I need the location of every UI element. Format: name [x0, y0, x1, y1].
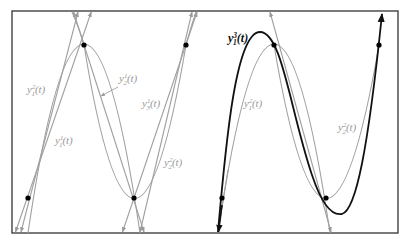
- label-left-y3-1: y13(t): [141, 97, 161, 112]
- interpolation-diagram: y21(t) y12(t) y13(t) y11(t) y22(t) y31(t…: [0, 0, 404, 245]
- label-left-y2-2: y22(t): [163, 156, 183, 171]
- left-panel: [16, 12, 198, 233]
- cubic-y1-3: [218, 14, 382, 232]
- parabola-y2-2: [84, 45, 186, 199]
- label-left-y1-2: y21(t): [26, 83, 46, 98]
- parabola-y2-2-right: [274, 45, 379, 199]
- label-pointer-y2-1: [101, 87, 118, 96]
- label-right-y1-2: y21(t): [243, 97, 263, 112]
- label-right-y2-2: y22(t): [337, 121, 357, 136]
- label-left-y2-1: y12(t): [118, 72, 138, 87]
- label-right-y1-3: y31(t): [226, 31, 248, 47]
- parabola-y1-2-right: [218, 44, 330, 233]
- label-left-y1-1: y11(t): [54, 134, 73, 149]
